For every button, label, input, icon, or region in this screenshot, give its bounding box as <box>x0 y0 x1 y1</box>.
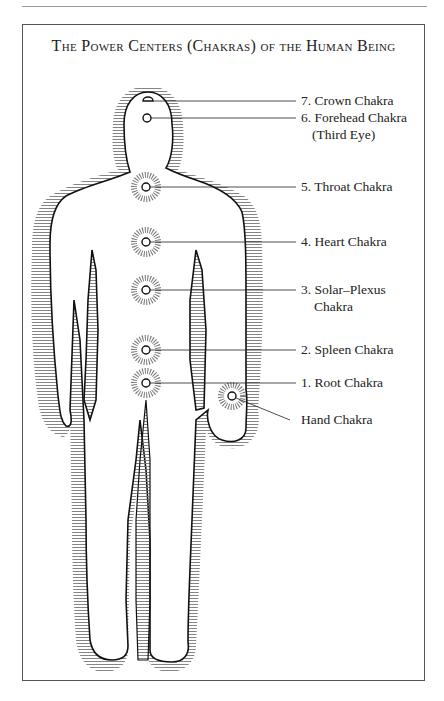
label-heart-chakra: 4. Heart Chakra <box>301 234 387 250</box>
label-solar-plexus-chakra: 3. Solar–Plexus <box>301 282 386 298</box>
label-crown-chakra: 7. Crown Chakra <box>301 93 394 109</box>
label-throat-chakra: 5. Throat Chakra <box>301 179 393 195</box>
label-forehead-chakra-sub: (Third Eye) <box>312 127 375 143</box>
forehead-chakra-icon <box>143 114 151 122</box>
label-spleen-chakra: 2. Spleen Chakra <box>301 342 394 358</box>
label-solar-plexus-chakra-sub: Chakra <box>314 299 353 315</box>
crown-chakra-icon <box>143 97 153 101</box>
label-hand-chakra: Hand Chakra <box>301 412 373 428</box>
label-forehead-chakra: 6. Forehead Chakra <box>301 110 407 126</box>
label-root-chakra: 1. Root Chakra <box>301 375 383 391</box>
